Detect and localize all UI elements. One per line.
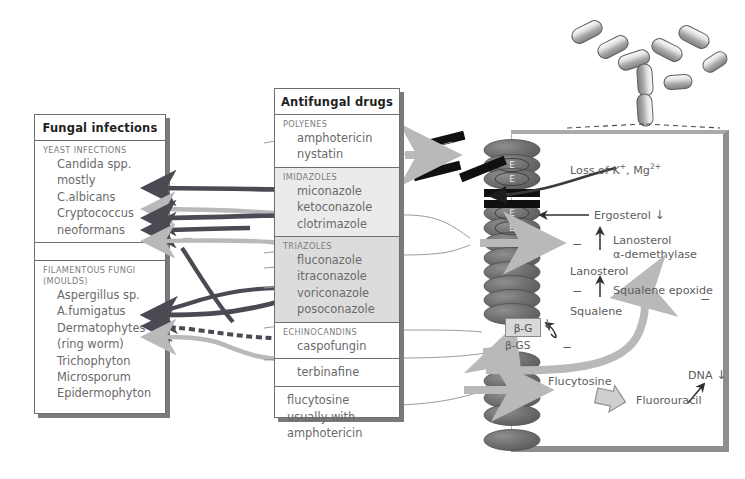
pathway-arrows xyxy=(540,215,704,403)
drug-item-terbinafine[interactable]: terbinafine xyxy=(275,364,399,380)
section-header-polyenes: POLYENES xyxy=(275,118,399,130)
drug-item-ketoconazole[interactable]: ketoconazole xyxy=(275,199,399,215)
section-header-triazoles: TRIAZOLES xyxy=(275,240,399,252)
panel-title-antifungal-drugs: Antifungal drugs xyxy=(275,89,399,115)
hyphae-illustration xyxy=(566,18,730,128)
drug-item-nystatin[interactable]: nystatin xyxy=(275,146,399,162)
drug-note-usually-with: usually with xyxy=(275,409,399,425)
drug-item-fluconazole[interactable]: fluconazole xyxy=(275,252,399,268)
drug-item-amphotericin[interactable]: amphotericin xyxy=(275,130,399,146)
amphotericin-bar xyxy=(413,161,462,181)
amphotericin-bar xyxy=(417,131,466,151)
section-triazoles: TRIAZOLES fluconazole itraconazole voric… xyxy=(275,237,399,323)
figure-canvas: EE EE xyxy=(0,0,745,479)
antifungal-drugs-panel: Antifungal drugs POLYENES amphotericin n… xyxy=(274,88,400,418)
drug-item-miconazole[interactable]: miconazole xyxy=(275,183,399,199)
section-imidazoles: IMIDAZOLES miconazole ketoconazole clotr… xyxy=(275,168,399,237)
svg-text:E: E xyxy=(509,223,515,233)
svg-text:E: E xyxy=(509,174,515,184)
drug-item-posoconazole[interactable]: posoconazole xyxy=(275,301,399,317)
svg-text:E: E xyxy=(509,208,515,218)
drug-item-caspofungin[interactable]: caspofungin xyxy=(275,338,399,354)
pore-bar xyxy=(484,200,540,208)
drug-item-itraconazole[interactable]: itraconazole xyxy=(275,268,399,284)
drug-item-voriconazole[interactable]: voriconazole xyxy=(275,285,399,301)
section-header-echinocandins: ECHINOCANDINS xyxy=(275,326,399,338)
section-polyenes: POLYENES amphotericin nystatin xyxy=(275,115,399,168)
section-terbinafine: terbinafine xyxy=(275,359,399,387)
fluorouracil-block-arrow xyxy=(593,382,628,415)
section-flucytosine: flucytosine usually with amphotericin xyxy=(275,387,399,445)
section-echinocandins: ECHINOCANDINS caspofungin xyxy=(275,323,399,359)
drug-item-flucytosine[interactable]: flucytosine xyxy=(275,392,399,408)
drug-item-amphotericin-combo[interactable]: amphotericin xyxy=(275,425,399,441)
section-header-imidazoles: IMIDAZOLES xyxy=(275,171,399,183)
svg-text:E: E xyxy=(509,160,515,170)
drug-item-clotrimazole[interactable]: clotrimazole xyxy=(275,216,399,232)
